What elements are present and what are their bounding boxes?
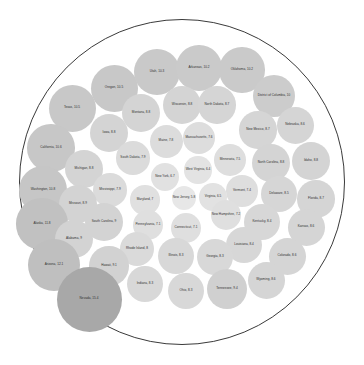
bubble-chart-canvas: Texas, 10.5Oregon, 10.5Utah, 10.3Arkansa… <box>0 0 364 365</box>
bubble-label: Michigan, 8.8 <box>75 167 94 170</box>
bubble-label: Massachusetts, 7.6 <box>185 136 212 139</box>
bubble-label: New Mexico, 8.7 <box>246 128 269 131</box>
bubble-north-dakota[interactable]: North Dakota, 8.7 <box>198 86 235 123</box>
bubble-minnesota[interactable]: Minnesota, 7.5 <box>214 144 246 176</box>
bubble-label: Connecticut, 7.1 <box>175 226 198 229</box>
bubble-label: Iowa, 8.8 <box>103 131 116 134</box>
bubble-label: Georgia, 8.3 <box>206 255 223 258</box>
bubble-mississippi[interactable]: Mississippi, 7.9 <box>93 173 127 207</box>
bubble-label: Mississippi, 7.9 <box>99 188 120 191</box>
bubble-label: New Jersey, 5.8 <box>173 196 195 199</box>
bubble-south-dakota[interactable]: South Dakota, 7.9 <box>116 141 150 175</box>
bubble-label: Wisconsin, 8.8 <box>172 103 193 106</box>
bubble-label: Kentucky, 8.4 <box>253 220 272 223</box>
bubble-west-virginia[interactable]: West Virginia, 6.4 <box>184 156 211 183</box>
bubble-label: Maryland, 7 <box>137 198 154 201</box>
bubble-label: Indiana, 8.3 <box>137 282 154 285</box>
bubble-label: Montana, 8.8 <box>132 111 150 114</box>
bubble-label: New Hampshire, 7.2 <box>212 213 241 216</box>
bubble-label: Nebraska, 8.6 <box>285 123 305 126</box>
bubble-label: Delaware, 8.5 <box>269 192 289 195</box>
bubble-nevada[interactable]: Nevada, 15.4 <box>57 267 122 332</box>
bubble-ohio[interactable]: Ohio, 8.3 <box>168 273 204 309</box>
bubble-label: Louisiana, 8.4 <box>234 243 254 246</box>
bubble-label: Arizona, 12.1 <box>45 263 64 266</box>
bubble-label: Idaho, 8.8 <box>304 159 318 162</box>
bubble-label: Florida, 8.7 <box>308 197 324 200</box>
bubble-label: Nevada, 15.4 <box>80 297 99 300</box>
bubble-label: Oklahoma, 10.2 <box>231 68 253 71</box>
bubble-label: Pennsylvania, 7.1 <box>136 223 161 226</box>
bubble-massachusetts[interactable]: Massachusetts, 7.6 <box>183 122 215 154</box>
bubble-label: Texas, 10.5 <box>64 106 80 109</box>
bubble-label: New York, 6.7 <box>155 175 175 178</box>
bubble-label: Kansas, 8.6 <box>298 225 315 228</box>
bubble-label: Hawaii, 9.1 <box>101 264 117 267</box>
bubble-wisconsin[interactable]: Wisconsin, 8.8 <box>163 86 201 124</box>
bubble-label: West Virginia, 6.4 <box>186 168 211 171</box>
bubble-label: Utah, 10.3 <box>150 70 165 73</box>
bubble-label: North Dakota, 8.7 <box>205 103 230 106</box>
bubble-label: Wyoming, 8.6 <box>256 278 275 281</box>
bubble-label: Alabama, 9 <box>66 237 82 240</box>
bubble-label: Colorado, 8.6 <box>278 254 297 257</box>
bubble-montana[interactable]: Montana, 8.8 <box>122 94 160 132</box>
bubble-label: Maine, 7.8 <box>159 139 174 142</box>
bubble-label: South Dakota, 7.9 <box>120 156 145 159</box>
bubble-label: Minnesota, 7.5 <box>220 158 241 161</box>
bubble-label: California, 10.6 <box>40 146 61 149</box>
bubble-label: South Carolina, 9 <box>92 220 116 223</box>
bubble-label: Arkansas, 10.2 <box>188 66 209 69</box>
bubble-label: Missouri, 8.9 <box>69 202 87 205</box>
bubble-label: Washington, 10.8 <box>31 188 55 191</box>
bubble-label: Illinois, 8.3 <box>168 254 183 257</box>
bubble-label: North Carolina, 8.8 <box>258 161 285 164</box>
bubble-maine[interactable]: Maine, 7.8 <box>150 125 183 158</box>
bubble-wyoming[interactable]: Wyoming, 8.6 <box>248 262 285 299</box>
bubble-label: Ohio, 8.3 <box>180 289 193 292</box>
bubble-nebraska[interactable]: Nebraska, 8.6 <box>277 107 314 144</box>
bubble-label: Oregon, 10.5 <box>105 86 123 89</box>
bubble-illinois[interactable]: Illinois, 8.3 <box>158 238 194 274</box>
bubble-label: Rhode Island, 8 <box>126 247 148 250</box>
bubble-idaho[interactable]: Idaho, 8.8 <box>292 142 330 180</box>
bubble-label: Vermont, 7.4 <box>233 189 251 192</box>
bubble-label: Tennessee, 9.4 <box>216 287 237 290</box>
bubble-arkansas[interactable]: Arkansas, 10.2 <box>176 45 221 90</box>
bubble-label: Virginia, 6.5 <box>205 195 222 198</box>
bubble-indiana[interactable]: Indiana, 8.3 <box>127 266 163 302</box>
bubble-label: District of Columbia, 10 <box>258 94 291 97</box>
bubble-label: Alaska, 11.8 <box>33 222 50 225</box>
